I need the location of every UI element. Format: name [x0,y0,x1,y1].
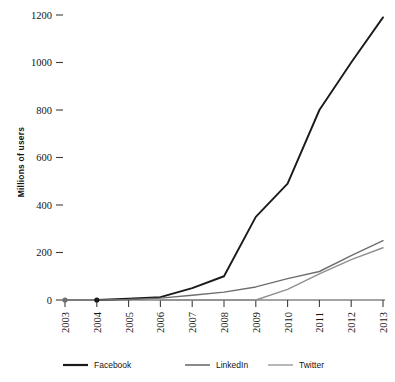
series-line-facebook [97,17,383,300]
legend-label-twitter: Twitter [299,360,324,370]
x-tick-label: 2009 [251,312,262,333]
series-line-twitter [160,248,383,300]
series-lines [65,17,383,300]
x-tick-label: 2013 [378,312,389,333]
legend-label-facebook: Facebook [94,360,132,370]
y-tick-label: 200 [36,247,52,258]
x-tick-label: 2005 [124,312,135,333]
x-tick-label: 2008 [219,312,230,333]
x-tick-label: 2011 [314,312,325,333]
y-tick-label: 600 [36,152,52,163]
x-tick-label: 2012 [346,312,357,333]
y-tick-label: 1000 [31,57,52,68]
series-start-marker-facebook [94,297,99,302]
y-axis-ticks: 020040060080010001200 [31,10,63,306]
legend-label-linkedin: LinkedIn [216,360,248,370]
x-tick-label: 2007 [187,312,198,333]
line-chart: Millions of users 020040060080010001200 … [0,0,395,382]
x-axis-ticks: 2003200420052006200720082009201020112012… [60,300,389,333]
y-tick-label: 1200 [31,10,52,21]
y-axis-title-label: Millions of users [16,127,26,198]
chart-legend: FacebookLinkedInTwitter [63,360,324,370]
y-tick-label: 800 [36,105,52,116]
x-tick-label: 2003 [60,312,71,333]
series-start-marker-linkedin [62,297,67,302]
y-tick-label: 400 [36,200,52,211]
chart-canvas: Millions of users 020040060080010001200 … [0,0,395,382]
y-tick-label: 0 [47,295,52,306]
series-line-linkedin [65,241,383,300]
y-axis-title: Millions of users [16,127,26,198]
x-tick-label: 2010 [283,312,294,333]
x-tick-label: 2004 [92,311,103,333]
x-tick-label: 2006 [155,312,166,333]
